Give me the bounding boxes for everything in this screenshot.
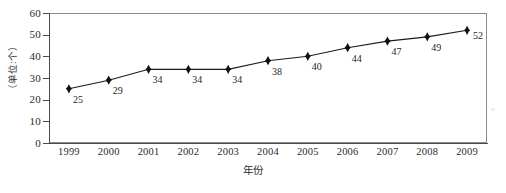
y-axis-tick xyxy=(43,13,49,14)
data-point-value-label: 25 xyxy=(73,95,83,105)
y-axis-tick xyxy=(43,78,49,79)
plot-area-frame xyxy=(49,13,487,143)
y-axis-tick-label-text: 0 xyxy=(1,138,41,149)
data-point-value-label: 34 xyxy=(192,75,202,85)
y-axis-tick-label-text: 30 xyxy=(1,73,41,84)
y-axis-tick-label: 60 xyxy=(0,8,41,19)
y-axis-tick-label-text: 10 xyxy=(1,116,41,127)
data-point-value-label: 29 xyxy=(113,86,123,96)
line-chart-figure: 0102030405060 19992000200120022003200420… xyxy=(0,0,506,193)
y-axis-tick xyxy=(43,121,49,122)
y-axis-tick-label-text: 20 xyxy=(1,94,41,105)
y-axis-tick-label: 40 xyxy=(0,51,41,62)
data-point-value-label: 52 xyxy=(473,31,483,41)
x-axis-title: 年份 xyxy=(0,166,506,177)
y-axis-tick-label: 10 xyxy=(0,116,41,127)
y-axis-tick xyxy=(43,143,49,144)
data-point-value-label: 40 xyxy=(312,62,322,72)
y-axis-tick-label-text: 40 xyxy=(1,51,41,62)
data-point-value-label: 34 xyxy=(153,75,163,85)
x-axis-line xyxy=(49,143,488,144)
y-axis-tick xyxy=(43,100,49,101)
y-axis-line xyxy=(49,13,50,144)
y-axis-tick-label: 50 xyxy=(0,29,41,40)
data-point-value-label: 47 xyxy=(391,47,401,57)
data-point-value-label: 34 xyxy=(232,75,242,85)
y-axis-tick xyxy=(43,35,49,36)
y-axis-tick-label: 30 xyxy=(0,73,41,84)
y-axis-tick-label: 20 xyxy=(0,94,41,105)
y-axis-tick-label-text: 60 xyxy=(1,8,41,19)
data-point-value-label: 38 xyxy=(272,67,282,77)
data-point-value-label: 44 xyxy=(352,54,362,64)
y-axis-tick-label: 0 xyxy=(0,138,41,149)
data-point-value-label: 49 xyxy=(431,43,441,53)
y-axis-title: （单位:个） xyxy=(9,30,19,106)
y-axis-tick-label-text: 50 xyxy=(1,29,41,40)
x-axis-tick-label: 2009 xyxy=(444,147,490,158)
y-axis-tick xyxy=(43,56,49,57)
scan-artifact: ≡ xyxy=(489,104,497,138)
